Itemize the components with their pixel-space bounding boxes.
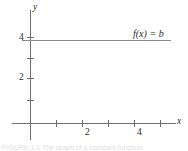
- x-tick-label-4: 4: [137, 128, 142, 138]
- function-equation-label: f(x) = b: [133, 29, 164, 39]
- constant-function-figure: 4 2 2 4 y x f(x) = b FIGURE 1.1 The grap…: [0, 0, 188, 151]
- x-axis-label: x: [177, 117, 181, 127]
- y-tick-label-2: 2: [19, 73, 24, 83]
- x-tick-label-2: 2: [85, 128, 90, 138]
- graph-canvas: [0, 0, 188, 151]
- figure-caption: FIGURE 1.1 The graph of a constant funct…: [2, 144, 186, 151]
- y-axis-label: y: [33, 3, 37, 13]
- y-tick-label-4: 4: [19, 33, 24, 43]
